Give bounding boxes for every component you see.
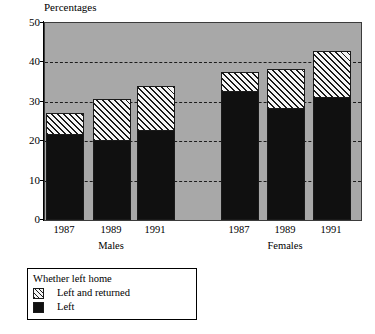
bar-segment-left [138, 130, 174, 219]
legend-title: Whether left home [33, 272, 191, 285]
chart-axis-title: Percentages [44, 1, 97, 13]
bar-segment-left-and-returned [47, 114, 83, 134]
legend-label-left-and-returned: Left and returned [57, 287, 130, 299]
group-label-females: Females [250, 240, 320, 252]
bar-females-1991 [313, 51, 351, 220]
x-tick-label-males-1991: 1991 [132, 224, 178, 236]
x-tick-label-males-1987: 1987 [41, 224, 87, 236]
bar-segment-left-and-returned [222, 73, 258, 91]
y-axis-tick-labels: 50 40 30 20 10 0 [0, 22, 40, 219]
y-tick-label-50: 50 [0, 17, 40, 28]
legend-swatch-hatched-icon [33, 288, 44, 299]
y-tick-label-40: 40 [0, 56, 40, 67]
x-tick-label-females-1989: 1989 [262, 224, 308, 236]
x-tick-label-males-1989: 1989 [88, 224, 134, 236]
chart-container: Percentages 50 40 30 20 10 0 [0, 0, 375, 334]
y-tick-label-0: 0 [0, 214, 40, 225]
bar-segment-left-and-returned [94, 100, 130, 140]
x-tick-label-females-1991: 1991 [308, 224, 354, 236]
bar-segment-left [94, 140, 130, 219]
bar-segment-left-and-returned [268, 70, 304, 108]
bar-females-1987 [221, 72, 259, 220]
legend-item-left-and-returned: Left and returned [33, 286, 191, 300]
legend-label-left: Left [57, 301, 75, 313]
bar-females-1989 [267, 69, 305, 220]
group-label-males: Males [76, 240, 146, 252]
bar-males-1991 [137, 86, 175, 220]
bar-segment-left [268, 108, 304, 219]
bar-segment-left [314, 97, 350, 219]
bar-segment-left-and-returned [314, 52, 350, 97]
legend-swatch-solid-icon [33, 302, 44, 313]
bar-males-1989 [93, 99, 131, 220]
bar-segment-left-and-returned [138, 87, 174, 130]
bar-segment-left [222, 91, 258, 219]
y-tick-label-10: 10 [0, 174, 40, 185]
y-tick-label-30: 30 [0, 95, 40, 106]
legend: Whether left home Left and returned Left [27, 268, 197, 320]
y-tick-label-20: 20 [0, 135, 40, 146]
legend-item-left: Left [33, 300, 191, 314]
bar-segment-left [47, 134, 83, 219]
plot-area [44, 22, 362, 221]
bar-males-1987 [46, 113, 84, 220]
x-tick-label-females-1987: 1987 [216, 224, 262, 236]
